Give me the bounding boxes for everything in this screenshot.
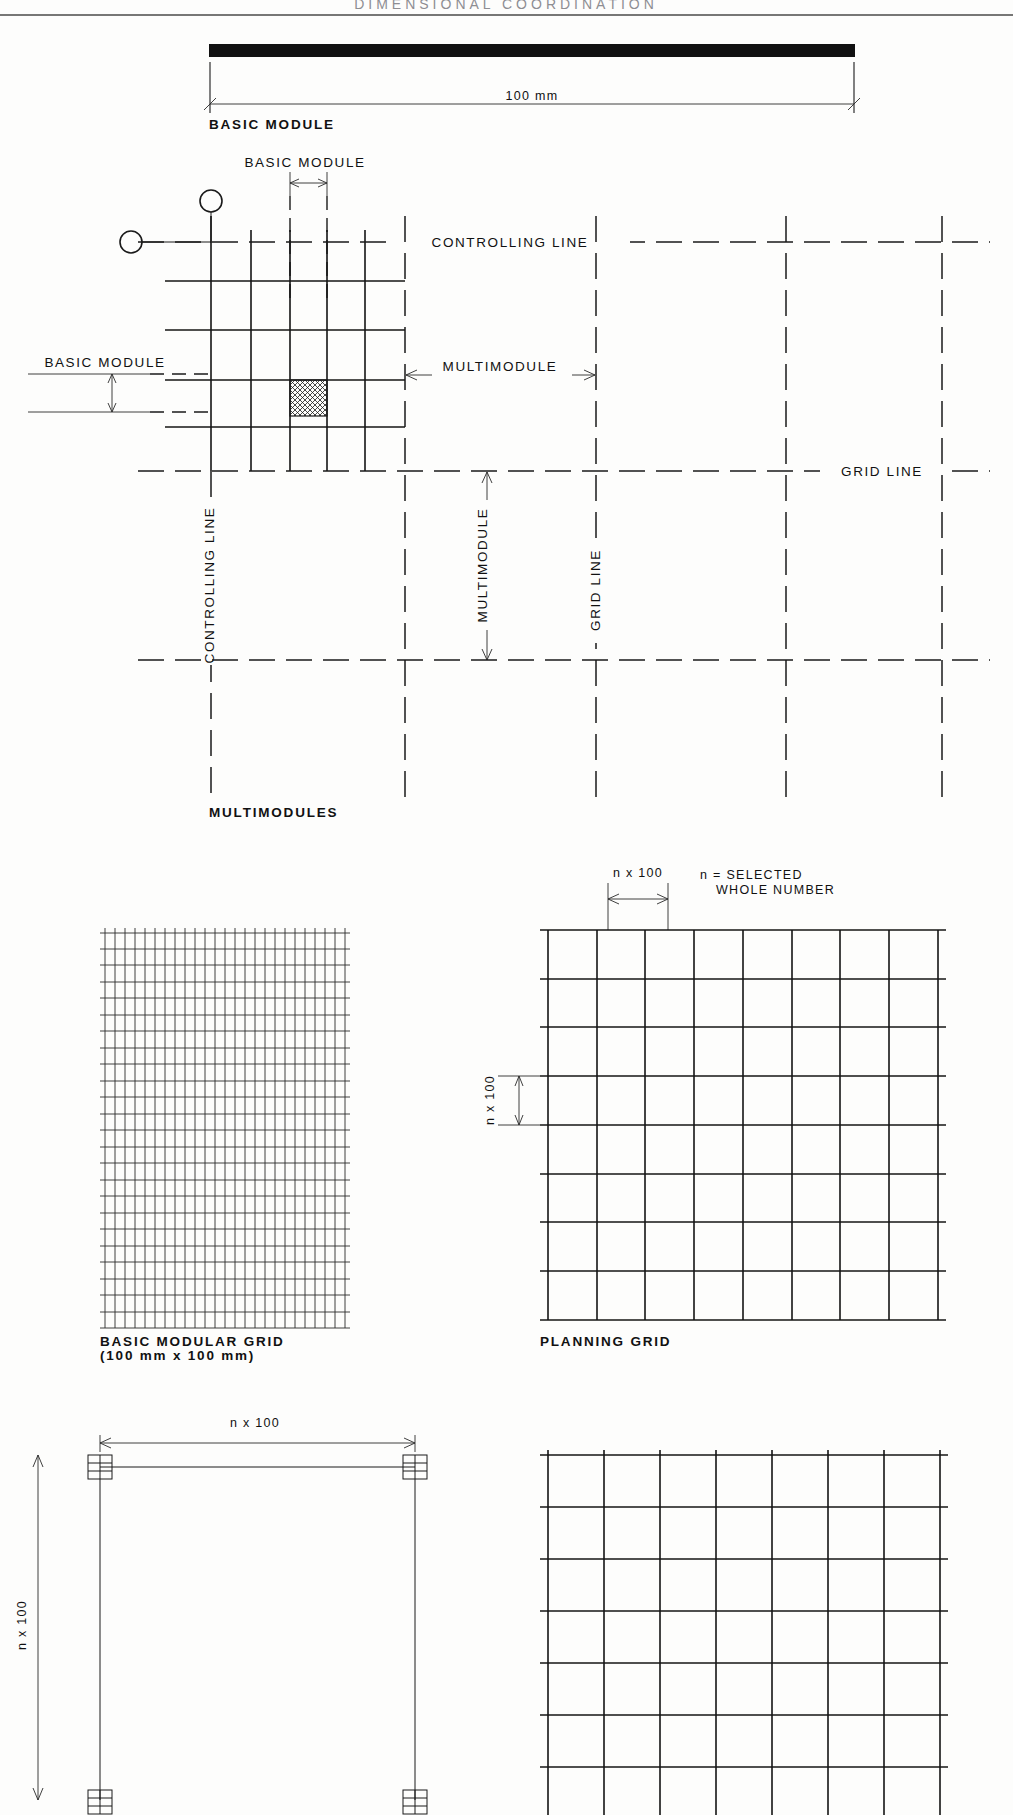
multimodule-horizontal-label: MULTIMODULE	[443, 359, 558, 374]
figure-planning-grid: n x 100 n = SELECTED WHOLE NUMBER	[483, 866, 946, 1349]
drawing-sheet: DIMENSIONAL COORDINATION 100 mm BASIC MO…	[0, 0, 1013, 1815]
planning-grid-note-line1: n = SELECTED	[700, 868, 803, 882]
left-basic-module-label: BASIC MODULE	[44, 355, 165, 370]
structural-bay-left-dimension-label: n x 100	[15, 1600, 29, 1650]
basic-modular-grid-caption-line2: (100 mm x 100 mm)	[100, 1348, 255, 1363]
planning-grid-left-dimension-label: n x 100	[483, 1075, 497, 1125]
structural-bay-top-dimension-label: n x 100	[230, 1416, 280, 1430]
planning-grid-note-line2: WHOLE NUMBER	[716, 883, 835, 897]
planning-grid-lines	[540, 930, 946, 1320]
node-circle-upper	[200, 190, 222, 212]
figure-structural-bay: n x 100	[15, 1416, 427, 1814]
figure-bottom-right-grid	[540, 1450, 948, 1815]
basic-module-caption: BASIC MODULE	[209, 117, 335, 132]
basic-modular-grid-lines	[100, 928, 350, 1328]
column-symbol-bottom-left	[88, 1790, 112, 1814]
controlling-line-horizontal-label: CONTROLLING LINE	[432, 235, 589, 250]
basic-module-dimension-label: 100 mm	[506, 89, 559, 103]
basic-module-bar	[209, 44, 855, 57]
grid-line-vertical-label: GRID LINE	[588, 549, 603, 631]
controlling-line-vertical-label: CONTROLLING LINE	[202, 507, 217, 664]
hatched-basic-module-cell	[290, 380, 327, 416]
figure-basic-module-bar: 100 mm BASIC MODULE	[204, 44, 860, 132]
multimodule-vertical-label: MULTIMODULE	[475, 508, 490, 623]
grid-line-horizontal-label: GRID LINE	[841, 464, 923, 479]
figure-basic-modular-grid: BASIC MODULAR GRID (100 mm x 100 mm)	[100, 928, 350, 1363]
planning-grid-caption: PLANNING GRID	[540, 1334, 671, 1349]
column-symbol-bottom-right	[403, 1790, 427, 1814]
multimodules-caption: MULTIMODULES	[209, 805, 338, 820]
basic-modular-grid-caption-line1: BASIC MODULAR GRID	[100, 1334, 285, 1349]
planning-grid-top-dimension-label: n x 100	[613, 866, 663, 880]
sheet-header-title: DIMENSIONAL COORDINATION	[354, 0, 658, 12]
figure-modular-grid-diagram: BASIC MODULE	[28, 155, 990, 820]
top-basic-module-label: BASIC MODULE	[244, 155, 365, 170]
